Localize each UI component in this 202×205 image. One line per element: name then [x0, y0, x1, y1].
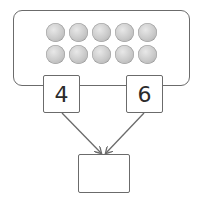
- whole-answer-box[interactable]: [78, 154, 130, 193]
- arrow-left-icon: [62, 113, 101, 153]
- arrow-right-icon: [106, 113, 144, 153]
